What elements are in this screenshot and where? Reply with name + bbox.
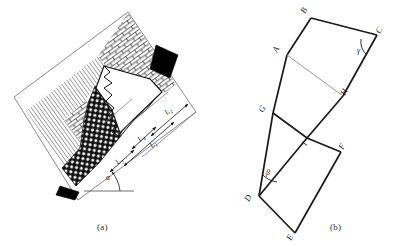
vertex-label-D: D — [241, 192, 254, 204]
chord-A-H — [287, 55, 343, 96]
panel-b-caption: (b) — [330, 222, 341, 232]
edge-B-C — [311, 18, 377, 35]
panel-a: α L2 L1 L4 L3 — [14, 12, 196, 200]
angle-beta-label: β — [265, 168, 270, 177]
panel-a-caption: (a) — [97, 222, 108, 232]
figure-svg: α L2 L1 L4 L3 — [0, 0, 398, 246]
panel-b: γ β A B C D E F G H I — [241, 6, 384, 243]
edge-D-E — [259, 196, 295, 233]
edge-E-F — [295, 152, 341, 233]
gamma-angle-arc — [361, 39, 367, 55]
figure-container: α L2 L1 L4 L3 — [0, 0, 398, 246]
vertex-label-C: C — [373, 25, 385, 35]
angle-gamma-label: γ — [357, 46, 361, 55]
edge-C-H — [343, 35, 377, 96]
vertex-label-G: G — [256, 104, 268, 114]
edge-A-B — [287, 18, 311, 55]
alpha-angle-arc — [112, 172, 120, 191]
vertex-label-E: E — [283, 232, 295, 243]
vertex-label-A: A — [269, 44, 281, 55]
vertex-label-B: B — [298, 6, 309, 15]
